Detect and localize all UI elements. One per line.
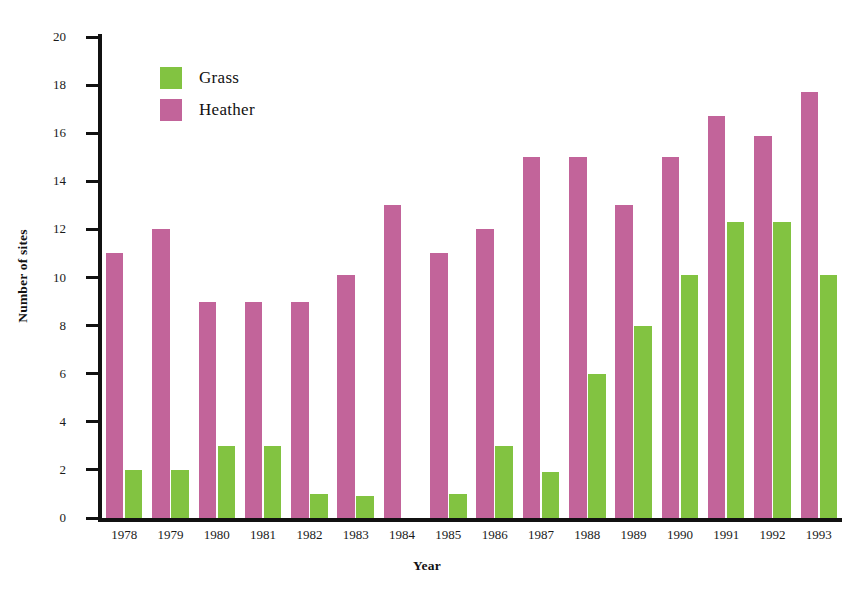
x-axis-line xyxy=(98,518,842,522)
heather-swatch xyxy=(160,99,182,121)
y-axis-tick-label: 10 xyxy=(6,270,66,286)
bar-group xyxy=(564,37,610,518)
bar-grass-1993 xyxy=(820,275,838,518)
y-axis-tick xyxy=(86,180,99,183)
bar-heather-1992 xyxy=(754,136,772,518)
x-axis-tick-label: 1979 xyxy=(147,527,193,543)
bar-grass-1982 xyxy=(310,494,328,518)
x-axis-tick-label: 1982 xyxy=(286,527,332,543)
bar-grass-1991 xyxy=(727,222,745,518)
y-axis-tick-label: 0 xyxy=(6,510,66,526)
y-axis-tick xyxy=(86,468,99,471)
bar-heather-1993 xyxy=(801,92,819,518)
bar-heather-1982 xyxy=(291,302,309,518)
y-axis-tick xyxy=(86,84,99,87)
y-axis-tick-label: 14 xyxy=(6,173,66,189)
y-axis-tick xyxy=(86,517,99,520)
bar-group xyxy=(286,37,332,518)
bar-grass-1985 xyxy=(449,494,467,518)
bar-grass-1983 xyxy=(356,496,374,518)
bar-grass-1992 xyxy=(773,222,791,518)
y-axis-tick-label: 8 xyxy=(6,318,66,334)
x-axis-tick-label: 1993 xyxy=(796,527,842,543)
x-axis-tick-label: 1992 xyxy=(749,527,795,543)
bar-grass-1989 xyxy=(634,326,652,518)
x-axis-tick-label: 1980 xyxy=(194,527,240,543)
y-axis-tick-label: 20 xyxy=(6,29,66,45)
bar-chart: Number of sites 02468101214161820 197819… xyxy=(0,0,854,595)
y-axis-tick-label: 4 xyxy=(6,414,66,430)
bar-group xyxy=(101,37,147,518)
bar-heather-1978 xyxy=(106,253,124,518)
legend-item-grass: Grass xyxy=(160,62,255,94)
bar-group xyxy=(796,37,842,518)
bar-group xyxy=(379,37,425,518)
y-axis-tick-label: 16 xyxy=(6,125,66,141)
x-axis-tick-label: 1983 xyxy=(333,527,379,543)
y-axis-tick xyxy=(86,420,99,423)
y-axis-tick-label: 18 xyxy=(6,77,66,93)
y-axis-tick xyxy=(86,276,99,279)
x-axis-tick-label: 1986 xyxy=(472,527,518,543)
y-axis-tick-label: 6 xyxy=(6,366,66,382)
bar-group xyxy=(657,37,703,518)
legend-label-grass: Grass xyxy=(199,68,239,88)
y-axis-tick xyxy=(86,36,99,39)
bar-heather-1979 xyxy=(152,229,170,518)
bar-group xyxy=(703,37,749,518)
bar-grass-1987 xyxy=(542,472,560,518)
bar-grass-1988 xyxy=(588,374,606,518)
x-axis-tick-label: 1984 xyxy=(379,527,425,543)
x-axis-tick-label: 1989 xyxy=(610,527,656,543)
bar-group xyxy=(518,37,564,518)
y-axis-tick xyxy=(86,228,99,231)
bar-grass-1990 xyxy=(681,275,699,518)
x-axis-tick-label: 1978 xyxy=(101,527,147,543)
bar-group xyxy=(749,37,795,518)
bar-heather-1984 xyxy=(384,205,402,518)
bar-heather-1980 xyxy=(199,302,217,518)
bar-heather-1991 xyxy=(708,116,726,518)
x-axis-tick-label: 1985 xyxy=(425,527,471,543)
x-axis-tick-label: 1987 xyxy=(518,527,564,543)
bar-grass-1978 xyxy=(125,470,143,518)
x-axis-tick-label: 1991 xyxy=(703,527,749,543)
bar-grass-1980 xyxy=(218,446,236,518)
bar-grass-1981 xyxy=(264,446,282,518)
bar-heather-1987 xyxy=(523,157,541,518)
legend-label-heather: Heather xyxy=(199,100,255,120)
bar-heather-1988 xyxy=(569,157,587,518)
bar-group xyxy=(333,37,379,518)
x-axis-tick-label: 1988 xyxy=(564,527,610,543)
bar-heather-1981 xyxy=(245,302,263,518)
grass-swatch xyxy=(160,67,182,89)
bar-grass-1979 xyxy=(171,470,189,518)
chart-legend: Grass Heather xyxy=(160,62,255,126)
bar-heather-1983 xyxy=(337,275,355,518)
legend-item-heather: Heather xyxy=(160,94,255,126)
y-axis-tick-label: 2 xyxy=(6,462,66,478)
y-axis-tick xyxy=(86,132,99,135)
x-axis-tick-label: 1990 xyxy=(657,527,703,543)
bar-heather-1986 xyxy=(476,229,494,518)
x-axis-tick-label: 1981 xyxy=(240,527,286,543)
bar-heather-1985 xyxy=(430,253,448,518)
bar-group xyxy=(472,37,518,518)
y-axis-tick xyxy=(86,372,99,375)
y-axis-tick xyxy=(86,324,99,327)
y-axis-tick-label: 12 xyxy=(6,221,66,237)
bar-heather-1989 xyxy=(615,205,633,518)
x-axis-title: Year xyxy=(0,558,854,574)
bar-group xyxy=(610,37,656,518)
bar-heather-1990 xyxy=(662,157,680,518)
bar-grass-1986 xyxy=(495,446,513,518)
bar-group xyxy=(425,37,471,518)
